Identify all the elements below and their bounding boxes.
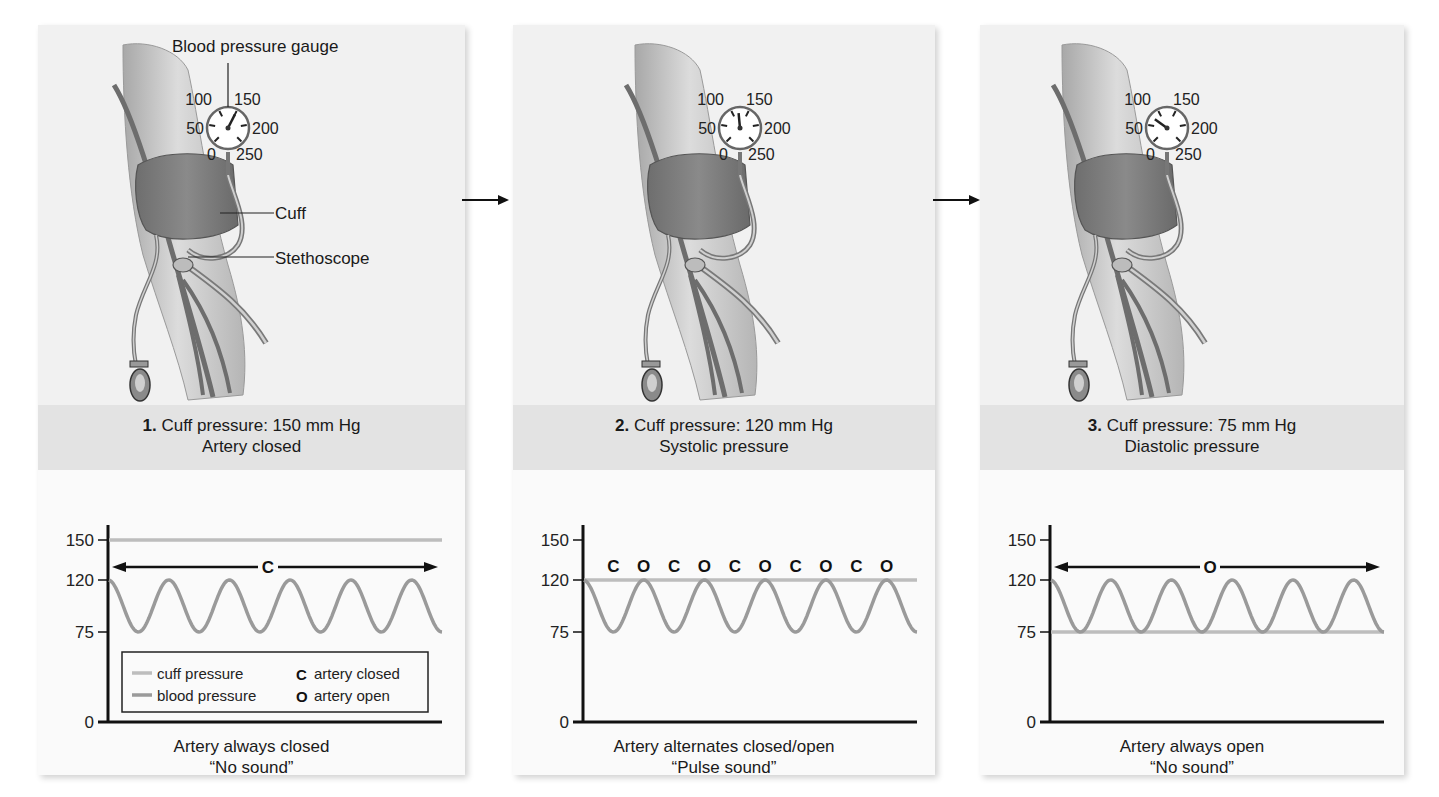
gauge-tick-label: 200 (764, 120, 791, 137)
chart-caption: Artery always open “No sound” (980, 736, 1404, 778)
step-header: 2. Cuff pressure: 120 mm Hg Systolic pre… (513, 405, 935, 470)
y-tick-label: 75 (1017, 623, 1036, 642)
gauge-tick-label: 250 (236, 146, 263, 163)
caption-line-2: “No sound” (980, 757, 1404, 778)
gauge-tick-label: 100 (697, 91, 724, 108)
arm-illustration: 100150502000250 (513, 25, 935, 405)
gauge-tick-label: 150 (1173, 91, 1200, 108)
step-heading: Cuff pressure: 75 mm Hg (1107, 416, 1297, 435)
gauge-tick-label: 150 (746, 91, 773, 108)
y-tick-label: 120 (1008, 571, 1036, 590)
artery-state-marker: C (668, 557, 680, 576)
y-tick-label: 120 (541, 571, 569, 590)
pressure-chart-plot: 075120150O (980, 470, 1404, 775)
gauge-tick-label: 50 (698, 120, 716, 137)
gauge-tick-label: 50 (186, 120, 204, 137)
gauge-tick-label: 100 (1124, 91, 1151, 108)
panel-step-3: 100150502000250 3. Cuff pressure: 75 mm … (980, 25, 1404, 775)
caption-line-2: “Pulse sound” (513, 757, 935, 778)
svg-text:blood pressure: blood pressure (157, 687, 256, 704)
cuff-icon (1075, 154, 1177, 239)
step-heading: Cuff pressure: 120 mm Hg (634, 416, 833, 435)
chart-legend: cuff pressureblood pressureCartery close… (122, 652, 428, 712)
arrow-left-icon (112, 562, 126, 572)
gauge-tick-label: 0 (1146, 146, 1155, 163)
y-tick-label: 0 (560, 713, 569, 732)
pressure-chart: 075120150O Artery always open “No sound” (980, 470, 1404, 775)
svg-text:artery open: artery open (314, 687, 390, 704)
panel-step-1: 100150502000250 1. Cuff pressure: 150 mm… (38, 25, 465, 775)
pressure-chart: 075120150Ccuff pressureblood pressureCar… (38, 470, 465, 775)
arrow-left-icon (1054, 562, 1068, 572)
arm-cuff-stethoscope-illustration: 100150502000250 (513, 25, 935, 405)
y-tick-label: 75 (75, 623, 94, 642)
gauge-tick-label: 0 (719, 146, 728, 163)
artery-state-marker: C (850, 557, 862, 576)
stethoscope-icon (685, 258, 705, 272)
artery-state-marker: O (698, 557, 711, 576)
caption-line-1: Artery alternates closed/open (513, 736, 935, 757)
step-subheading: Artery closed (38, 436, 465, 457)
svg-text:C: C (296, 666, 307, 683)
arm-cuff-stethoscope-illustration: 100150502000250 (980, 25, 1404, 405)
step-number: 2. (615, 416, 629, 435)
artery-state-marker: O (637, 557, 650, 576)
arm-illustration: 100150502000250 (38, 25, 465, 405)
next-step-arrow-icon (933, 193, 981, 207)
gauge-tick-label: 50 (1125, 120, 1143, 137)
pressure-chart: 075120150COCOCOCOCO Artery alternates cl… (513, 470, 935, 775)
stethoscope-icon (173, 258, 193, 272)
step-number: 1. (143, 416, 157, 435)
cuff-callout-label: Cuff (275, 204, 306, 224)
pressure-chart-plot: 075120150Ccuff pressureblood pressureCar… (38, 470, 465, 775)
blood-pressure-wave (584, 580, 917, 632)
artery-state-marker: C (789, 557, 801, 576)
next-step-arrow-icon (462, 193, 510, 207)
gauge-tick-label: 0 (207, 146, 216, 163)
caption-line-1: Artery always closed (38, 736, 465, 757)
arm-illustration: 100150502000250 (980, 25, 1404, 405)
y-tick-label: 0 (1027, 713, 1036, 732)
y-tick-label: 0 (85, 713, 94, 732)
artery-state-marker: C (729, 557, 741, 576)
step-subheading: Systolic pressure (513, 436, 935, 457)
caption-line-1: Artery always open (980, 736, 1404, 757)
artery-state-label: C (262, 558, 274, 577)
y-tick-label: 150 (66, 531, 94, 550)
chart-caption: Artery alternates closed/open “Pulse sou… (513, 736, 935, 778)
step-number: 3. (1088, 416, 1102, 435)
stethoscope-icon (1112, 258, 1132, 272)
arm-cuff-stethoscope-illustration: 100150502000250 (38, 25, 465, 405)
blood-pressure-wave (1051, 580, 1384, 632)
svg-text:cuff pressure: cuff pressure (157, 665, 243, 682)
caption-line-2: “No sound” (38, 757, 465, 778)
gauge-callout-label: Blood pressure gauge (172, 37, 338, 57)
artery-state-label: O (1203, 558, 1216, 577)
arrow-right-icon (1366, 562, 1380, 572)
gauge-tick-label: 150 (234, 91, 261, 108)
y-tick-label: 150 (541, 531, 569, 550)
step-header: 3. Cuff pressure: 75 mm Hg Diastolic pre… (980, 405, 1404, 470)
step-header: 1. Cuff pressure: 150 mm Hg Artery close… (38, 405, 465, 470)
step-heading: Cuff pressure: 150 mm Hg (161, 416, 360, 435)
artery-state-marker: C (607, 557, 619, 576)
artery-state-marker: O (759, 557, 772, 576)
gauge-tick-label: 250 (748, 146, 775, 163)
stethoscope-callout-label: Stethoscope (275, 249, 370, 269)
cuff-icon (136, 154, 238, 239)
chart-caption: Artery always closed “No sound” (38, 736, 465, 778)
y-tick-label: 120 (66, 571, 94, 590)
gauge-tick-label: 200 (252, 120, 279, 137)
svg-text:artery closed: artery closed (314, 665, 400, 682)
panel-step-2: 100150502000250 2. Cuff pressure: 120 mm… (513, 25, 935, 775)
gauge-tick-label: 100 (185, 91, 212, 108)
arrow-right-icon (424, 562, 438, 572)
y-tick-label: 75 (550, 623, 569, 642)
pressure-chart-plot: 075120150COCOCOCOCO (513, 470, 935, 775)
svg-text:O: O (296, 688, 308, 705)
artery-state-marker: O (819, 557, 832, 576)
y-tick-label: 150 (1008, 531, 1036, 550)
step-subheading: Diastolic pressure (980, 436, 1404, 457)
cuff-icon (648, 154, 750, 239)
gauge-tick-label: 250 (1175, 146, 1202, 163)
